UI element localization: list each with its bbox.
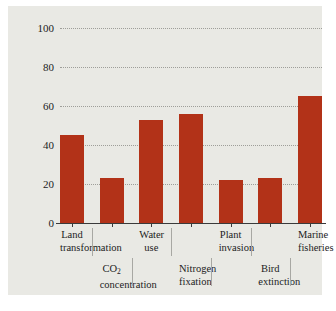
x-tick bbox=[151, 223, 152, 227]
bar-plant-invasion[interactable] bbox=[219, 180, 243, 223]
x-label-nitrogen-fixation: Nitrogen fixation bbox=[179, 262, 203, 291]
y-tick-label-80: 80 bbox=[43, 62, 54, 73]
y-tick-label-100: 100 bbox=[38, 23, 55, 34]
x-label-plant-invasion: Plant invasion bbox=[219, 228, 243, 254]
plot-area: 100 80 60 40 20 0 bbox=[60, 28, 322, 223]
label-group-divider bbox=[251, 228, 252, 256]
x-labels-row-lower: CO2 concentration Nitrogen fixation Bird… bbox=[60, 262, 322, 291]
label-group-divider bbox=[171, 228, 172, 256]
x-tick bbox=[231, 223, 232, 227]
x-tick bbox=[310, 223, 311, 227]
bar-marine-fisheries[interactable] bbox=[298, 96, 322, 223]
bar-series bbox=[60, 28, 322, 223]
label-group-divider bbox=[290, 258, 291, 286]
y-tick-label-60: 60 bbox=[43, 101, 54, 112]
bar-land-transformation[interactable] bbox=[60, 135, 84, 223]
x-tick bbox=[72, 223, 73, 227]
label-group-divider bbox=[132, 258, 133, 286]
bar-nitrogen-fixation[interactable] bbox=[179, 114, 203, 223]
co2-subscript: 2 bbox=[117, 267, 121, 276]
x-label-land-transformation: Land transformation bbox=[60, 228, 84, 254]
bar-bird-extinction[interactable] bbox=[258, 178, 282, 223]
y-tick-label-20: 20 bbox=[43, 179, 54, 190]
x-label-bird-extinction: Bird extinction bbox=[258, 262, 282, 291]
x-tick bbox=[191, 223, 192, 227]
x-labels-row-upper: Land transformation Water use Plant inva… bbox=[60, 228, 322, 254]
chart-figure: Percentage Change 100 80 60 40 20 0 Land… bbox=[0, 0, 336, 311]
y-tick-label-40: 40 bbox=[43, 140, 54, 151]
x-label-marine-fisheries: Marine fisheries bbox=[298, 228, 322, 254]
x-tick bbox=[112, 223, 113, 227]
label-group-divider bbox=[211, 258, 212, 286]
x-label-co2-concentration: CO2 concentration bbox=[100, 262, 124, 291]
bar-water-use[interactable] bbox=[139, 120, 163, 223]
label-group-divider bbox=[92, 228, 93, 256]
bar-co2-concentration[interactable] bbox=[100, 178, 124, 223]
x-label-water-use: Water use bbox=[139, 228, 163, 254]
y-tick-label-0: 0 bbox=[49, 218, 55, 229]
x-tick bbox=[270, 223, 271, 227]
